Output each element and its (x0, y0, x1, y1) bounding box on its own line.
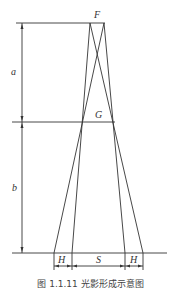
arrow-left-icon (73, 265, 77, 268)
label-a: a (11, 67, 16, 77)
arrow-right-icon (138, 265, 142, 268)
arrow-up-icon (21, 24, 24, 29)
ray-right-outer (90, 23, 143, 253)
arrow-right-icon (67, 265, 71, 268)
ray-left-inner (72, 23, 90, 253)
ray-left-outer (54, 23, 104, 253)
figure-caption: 图 1.1.11 光影形成示意图 (0, 277, 181, 290)
arrow-right-icon (120, 265, 124, 268)
arrow-down-icon (21, 247, 24, 252)
arrow-up-icon (21, 123, 24, 128)
arrow-left-icon (126, 265, 130, 268)
arrow-left-icon (55, 265, 59, 268)
label-f: F (94, 10, 100, 20)
label-h-left: H (58, 255, 65, 265)
ray-right-inner (104, 23, 125, 253)
label-b: b (12, 183, 17, 193)
label-h-right: H (130, 255, 137, 265)
label-s: S (96, 255, 101, 265)
arrow-down-icon (21, 116, 24, 121)
label-g: G (95, 110, 102, 120)
